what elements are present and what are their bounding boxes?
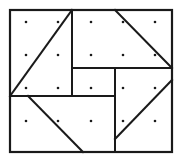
grid-dot-r1-c4 [122, 21, 125, 24]
grid-dot-r2-c1 [25, 54, 28, 57]
grid-dot-r4-c3 [90, 120, 93, 123]
grid-dot-r4-c4 [122, 120, 125, 123]
grid-dot-r1-c3 [90, 21, 93, 24]
grid-dot-r4-c5 [154, 120, 157, 123]
grid-dot-r3-c1 [25, 87, 28, 90]
grid-dot-r4-c2 [57, 120, 60, 123]
grid-dot-r1-c5 [154, 21, 157, 24]
figure-background [0, 0, 184, 166]
grid-dot-r3-c3 [90, 87, 93, 90]
grid-dot-r4-c1 [25, 120, 28, 123]
pinwheel-quilt-block-figure [0, 0, 184, 166]
grid-dot-r3-c4 [122, 87, 125, 90]
grid-dot-r2-c5 [154, 54, 157, 57]
grid-dot-r3-c2 [57, 87, 60, 90]
grid-dot-r3-c5 [154, 87, 157, 90]
grid-dot-r1-c2 [57, 21, 60, 24]
grid-dot-r2-c3 [90, 54, 93, 57]
grid-dot-r2-c4 [122, 54, 125, 57]
figure-canvas [0, 0, 184, 166]
grid-dot-r2-c2 [57, 54, 60, 57]
grid-dot-r1-c1 [25, 21, 28, 24]
